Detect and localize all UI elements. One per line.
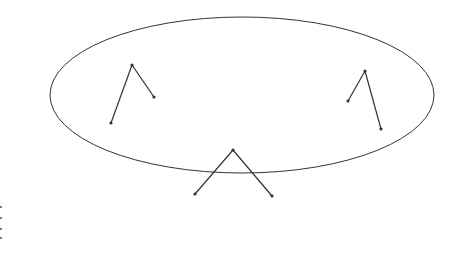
edge-mark bbox=[0, 228, 2, 230]
tree-node bbox=[363, 69, 366, 72]
tree-node bbox=[231, 148, 234, 151]
tree-edge bbox=[348, 71, 365, 101]
tree-edge bbox=[365, 71, 381, 129]
edge-mark bbox=[0, 237, 2, 239]
diagram-canvas bbox=[0, 0, 450, 280]
tree-node bbox=[379, 127, 382, 130]
right-tree bbox=[346, 69, 382, 130]
tree-edge bbox=[111, 65, 132, 123]
tree-edge bbox=[195, 150, 233, 194]
tree-node bbox=[193, 192, 196, 195]
tree-node bbox=[109, 121, 112, 124]
edge-mark bbox=[0, 217, 2, 219]
tree-edge bbox=[132, 65, 154, 97]
edge-mark bbox=[0, 206, 2, 208]
enclosing-ellipse bbox=[50, 17, 434, 173]
edge-marks bbox=[0, 206, 2, 239]
tree-node bbox=[152, 95, 155, 98]
tree-node bbox=[346, 99, 349, 102]
trees-group bbox=[109, 63, 382, 197]
left-tree bbox=[109, 63, 155, 124]
tree-node bbox=[270, 194, 273, 197]
tree-node bbox=[130, 63, 133, 66]
